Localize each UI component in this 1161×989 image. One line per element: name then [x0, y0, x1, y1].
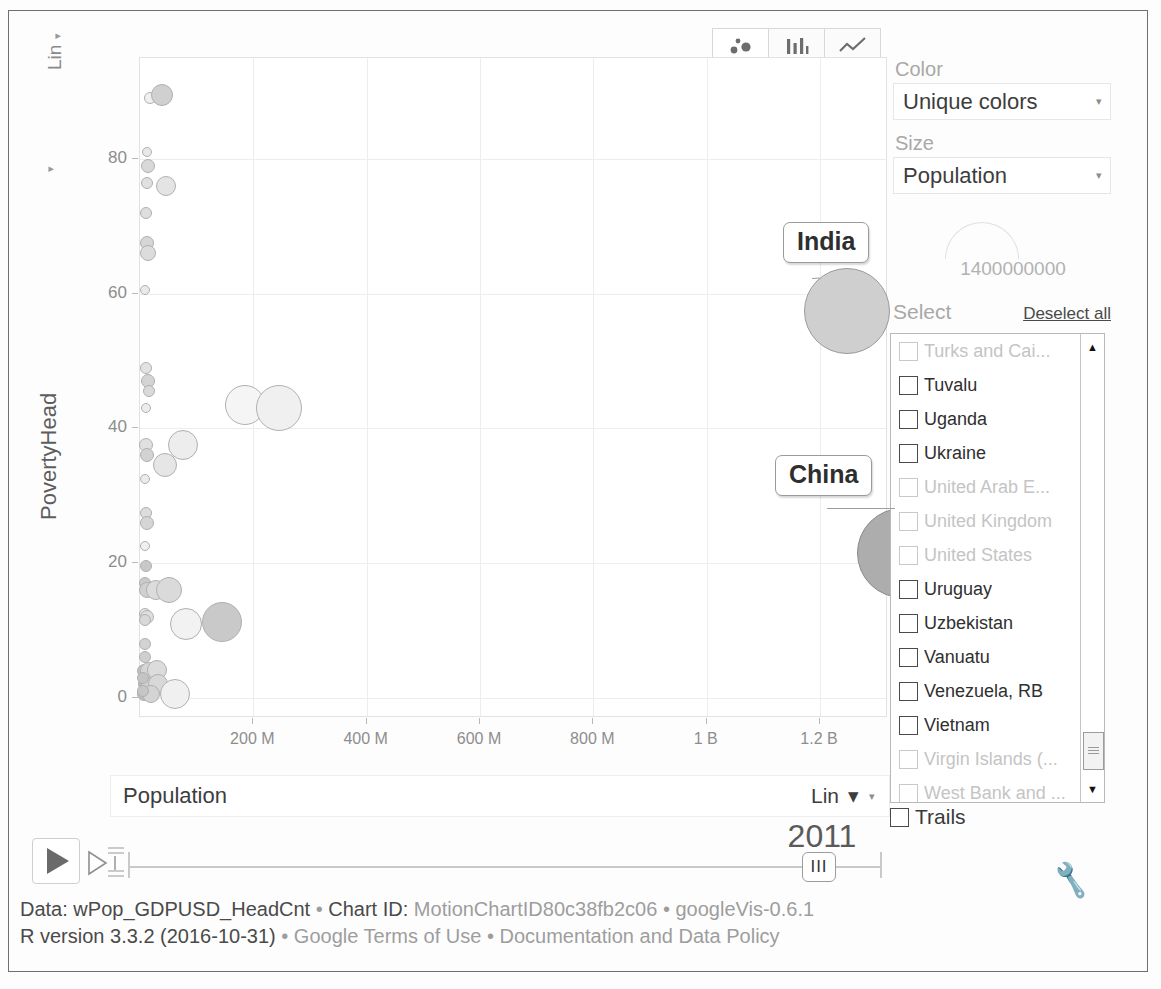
data-bubble[interactable]	[141, 159, 155, 173]
data-bubble[interactable]	[170, 608, 202, 640]
color-select[interactable]: Unique colors ▾	[893, 83, 1111, 120]
country-checkbox[interactable]	[899, 512, 918, 531]
x-scale-label: Lin	[811, 784, 839, 808]
color-label: Color	[895, 58, 1111, 81]
list-item[interactable]: United States	[891, 538, 1080, 572]
size-legend-value: 1400000000	[933, 258, 1093, 280]
scrollbar-thumb[interactable]	[1083, 732, 1104, 770]
x-tick-mark	[252, 718, 253, 724]
data-bubble[interactable]	[140, 362, 152, 374]
country-list[interactable]: Turks and Cai...TuvaluUgandaUkraineUnite…	[891, 334, 1080, 802]
list-item[interactable]: Turks and Cai...	[891, 334, 1080, 368]
list-item[interactable]: Uganda	[891, 402, 1080, 436]
data-bubble[interactable]	[141, 177, 153, 189]
playback-speed-button[interactable]	[84, 840, 128, 882]
data-bubble[interactable]	[137, 672, 149, 684]
data-bubble[interactable]	[140, 516, 154, 530]
x-gridline	[707, 58, 708, 716]
deselect-all-link[interactable]: Deselect all	[1023, 304, 1111, 324]
list-item[interactable]: Venezuela, RB	[891, 674, 1080, 708]
list-item[interactable]: United Arab E...	[891, 470, 1080, 504]
x-tick-mark	[706, 718, 707, 724]
country-checkbox[interactable]	[899, 342, 918, 361]
list-scrollbar[interactable]: ▲ ▼	[1080, 334, 1104, 802]
country-checkbox[interactable]	[899, 750, 918, 769]
callout-india[interactable]: India	[783, 222, 869, 263]
country-label: Ukraine	[924, 443, 986, 464]
country-checkbox[interactable]	[899, 376, 918, 395]
list-item[interactable]: Virgin Islands (...	[891, 742, 1080, 776]
y-axis-flip-arrow[interactable]: ▾	[44, 166, 57, 172]
chevron-down-icon: ▾	[1096, 169, 1102, 182]
year-label: 2011	[742, 818, 902, 855]
x-tick-mark	[819, 718, 820, 724]
y-gridline	[140, 698, 886, 699]
data-bubble[interactable]	[141, 403, 151, 413]
scroll-up-arrow-icon[interactable]: ▲	[1081, 334, 1104, 360]
list-item[interactable]: Uruguay	[891, 572, 1080, 606]
footer-terms-link[interactable]: Google Terms of Use	[294, 925, 482, 947]
x-scale-selector[interactable]: Lin ▾	[795, 778, 875, 814]
size-select[interactable]: Population ▾	[893, 157, 1111, 194]
footer-sep: •	[276, 925, 294, 947]
country-label: Vietnam	[924, 715, 990, 736]
list-item[interactable]: Uzbekistan	[891, 606, 1080, 640]
scroll-down-arrow-icon[interactable]: ▼	[1081, 776, 1104, 802]
data-bubble[interactable]	[256, 385, 302, 431]
data-bubble[interactable]	[140, 245, 156, 261]
country-checkbox[interactable]	[899, 546, 918, 565]
country-checkbox[interactable]	[899, 784, 918, 803]
data-bubble[interactable]	[142, 147, 152, 157]
trails-label: Trails	[915, 805, 966, 829]
country-label: Uganda	[924, 409, 987, 430]
timeline-track[interactable]	[130, 866, 880, 868]
plot-area[interactable]	[139, 57, 887, 717]
country-checkbox[interactable]	[899, 648, 918, 667]
data-bubble[interactable]	[140, 207, 152, 219]
data-bubble[interactable]	[139, 638, 151, 650]
list-item[interactable]: Ukraine	[891, 436, 1080, 470]
data-bubble[interactable]	[143, 385, 155, 397]
data-bubble-india[interactable]	[804, 268, 890, 354]
country-checkbox[interactable]	[899, 580, 918, 599]
y-scale-selector[interactable]: Lin ▾	[44, 33, 66, 70]
data-bubble[interactable]	[140, 560, 152, 572]
size-label: Size	[895, 132, 1111, 155]
footer-docs-link[interactable]: Documentation and Data Policy	[499, 925, 779, 947]
data-bubble[interactable]	[151, 84, 173, 106]
data-bubble[interactable]	[202, 602, 242, 642]
country-label: United States	[924, 545, 1032, 566]
speed-icon	[84, 840, 128, 882]
data-bubble[interactable]	[140, 541, 150, 551]
y-tick-label: 40	[83, 417, 127, 437]
x-tick-label: 800 M	[557, 730, 627, 748]
data-bubble[interactable]	[140, 448, 154, 462]
data-bubble[interactable]	[160, 679, 190, 709]
list-item[interactable]: Vanuatu	[891, 640, 1080, 674]
country-checkbox[interactable]	[899, 478, 918, 497]
data-bubble[interactable]	[153, 453, 177, 477]
data-bubble[interactable]	[156, 577, 182, 603]
timeline-handle[interactable]: III	[802, 852, 836, 882]
settings-wrench-icon[interactable]: 🔧	[1050, 859, 1093, 901]
data-bubble[interactable]	[156, 176, 176, 196]
country-checkbox[interactable]	[899, 444, 918, 463]
country-checkbox[interactable]	[899, 614, 918, 633]
footer-sep: •	[657, 898, 675, 920]
country-checkbox[interactable]	[899, 716, 918, 735]
country-checkbox[interactable]	[899, 410, 918, 429]
list-item[interactable]: West Bank and ...	[891, 776, 1080, 802]
country-select-listbox[interactable]: Turks and Cai...TuvaluUgandaUkraineUnite…	[890, 333, 1105, 803]
country-label: West Bank and ...	[924, 783, 1066, 803]
list-item[interactable]: Tuvalu	[891, 368, 1080, 402]
play-button[interactable]	[32, 838, 80, 884]
callout-china[interactable]: China	[775, 455, 872, 496]
data-bubble[interactable]	[139, 614, 151, 626]
list-item[interactable]: Vietnam	[891, 708, 1080, 742]
list-item[interactable]: United Kingdom	[891, 504, 1080, 538]
data-bubble[interactable]	[140, 474, 150, 484]
country-checkbox[interactable]	[899, 682, 918, 701]
x-axis-select[interactable]: Population ▾	[110, 775, 890, 817]
handle-grip-icon: III	[810, 857, 827, 877]
x-tick-mark	[479, 718, 480, 724]
